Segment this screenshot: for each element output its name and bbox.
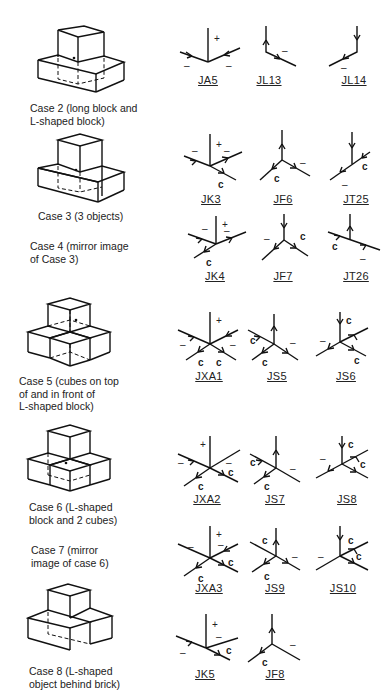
- junction-JT26: c–: [328, 214, 388, 269]
- svg-text:+: +: [214, 33, 220, 44]
- case3-block-figure: [36, 132, 131, 207]
- svg-text:+: +: [216, 139, 222, 150]
- svg-text:c: c: [354, 355, 360, 366]
- junction-JL13: –: [258, 22, 308, 72]
- svg-text:–: –: [226, 60, 232, 71]
- junction-label-JT25: JT25: [331, 193, 381, 205]
- junction-JK3: +––c: [184, 130, 254, 185]
- junction-label-JF8: JF8: [250, 668, 300, 680]
- case5-cubes-figure: [26, 296, 116, 371]
- junction-label-JS7: JS7: [250, 493, 300, 505]
- svg-text:c: c: [226, 645, 232, 656]
- svg-text:–: –: [300, 157, 306, 168]
- svg-text:–: –: [292, 551, 298, 562]
- svg-text:c: c: [332, 241, 338, 252]
- svg-text:–: –: [264, 233, 270, 244]
- svg-text:–: –: [360, 253, 366, 264]
- svg-text:–: –: [342, 179, 348, 190]
- svg-text:–: –: [224, 225, 230, 236]
- svg-text:–: –: [224, 145, 230, 156]
- svg-text:–: –: [184, 60, 190, 71]
- svg-text:–: –: [282, 45, 288, 56]
- junction-label-JS6: JS6: [321, 370, 371, 382]
- svg-text:–: –: [180, 647, 186, 658]
- svg-text:c: c: [300, 231, 306, 242]
- case6-cubes-figure: [26, 423, 116, 495]
- svg-text:c: c: [274, 173, 280, 184]
- junction-JF8: –c: [248, 614, 313, 669]
- case8-brick-figure: [26, 582, 116, 654]
- junction-JF6: –c: [260, 130, 320, 185]
- junction-label-JF7: JF7: [258, 270, 308, 282]
- svg-text:c: c: [198, 357, 204, 368]
- svg-text:–: –: [290, 337, 296, 348]
- junction-label-JA5: JA5: [183, 74, 233, 86]
- svg-text:c: c: [360, 459, 366, 470]
- svg-text:–: –: [341, 62, 347, 73]
- junction-label-JS9: JS9: [250, 582, 300, 594]
- svg-text:c: c: [262, 657, 268, 668]
- junction-label-JK3: JK3: [186, 193, 236, 205]
- svg-text:–: –: [230, 339, 236, 350]
- junction-label-JF6: JF6: [258, 193, 308, 205]
- svg-text:–: –: [318, 551, 324, 562]
- svg-text:–: –: [192, 145, 198, 156]
- case3-caption: Case 3 (3 objects): [38, 210, 123, 223]
- svg-text:–: –: [290, 463, 296, 474]
- svg-text:–: –: [188, 541, 194, 552]
- junction-label-JXA1: JXA1: [184, 370, 234, 382]
- junction-JS5: c–c: [248, 310, 313, 365]
- svg-text:–: –: [216, 631, 222, 642]
- svg-text:c: c: [356, 551, 362, 562]
- junction-label-JXA2: JXA2: [182, 493, 232, 505]
- svg-text:c: c: [262, 357, 268, 368]
- junction-JT25: c–: [330, 130, 388, 185]
- case7-caption: Case 7 (mirror image of case 6): [31, 544, 109, 569]
- junction-JK5: +––c: [176, 614, 246, 669]
- junction-JXA1: +––cc: [176, 310, 246, 365]
- case4-caption: Case 4 (mirror image of Case 3): [30, 240, 129, 265]
- junction-JL14: –: [325, 22, 375, 72]
- junction-label-JK4: JK4: [190, 270, 240, 282]
- svg-text:c: c: [264, 571, 270, 582]
- junction-JK4: +––c: [188, 214, 258, 269]
- svg-text:c: c: [250, 457, 256, 468]
- svg-text:–: –: [202, 223, 208, 234]
- junction-JS6: c–c: [316, 310, 386, 365]
- svg-text:c: c: [218, 179, 224, 190]
- svg-text:c: c: [346, 315, 352, 326]
- case6-caption: Case 6 (L-shaped block and 2 cubes): [29, 501, 117, 526]
- junction-label-JT26: JT26: [331, 270, 381, 282]
- case2-block-figure: [36, 22, 131, 97]
- junction-JXA2: +––cc: [176, 436, 246, 491]
- svg-text:+: +: [200, 439, 206, 450]
- junction-JXA3: +––cc: [176, 526, 246, 581]
- svg-text:c: c: [216, 357, 222, 368]
- junction-label-JXA3: JXA3: [184, 582, 234, 594]
- junction-JS8: c–c: [316, 436, 386, 491]
- junction-label-JL14: JL14: [329, 74, 379, 86]
- svg-text:c: c: [206, 257, 212, 268]
- junction-label-JS5: JS5: [252, 370, 302, 382]
- svg-text:c: c: [228, 467, 234, 478]
- svg-text:–: –: [178, 457, 184, 468]
- junction-JS10: c–c: [316, 526, 386, 581]
- junction-label-JS10: JS10: [318, 582, 368, 594]
- junction-JF7: –c: [262, 214, 322, 269]
- junction-JA5: +––: [178, 22, 248, 72]
- svg-text:c: c: [362, 161, 368, 172]
- svg-text:c: c: [348, 535, 354, 546]
- case8-caption: Case 8 (L-shaped object behind brick): [29, 665, 120, 690]
- svg-text:–: –: [290, 639, 296, 650]
- case2-caption: Case 2 (long block and L-shaped block): [30, 102, 137, 127]
- svg-text:+: +: [212, 619, 218, 630]
- junction-label-JK5: JK5: [180, 668, 230, 680]
- svg-text:c: c: [264, 481, 270, 492]
- svg-text:c: c: [262, 535, 268, 546]
- svg-text:c: c: [348, 439, 354, 450]
- junction-JS7: c–c: [250, 436, 315, 491]
- svg-text:c: c: [198, 481, 204, 492]
- svg-text:c: c: [228, 557, 234, 568]
- junction-label-JL13: JL13: [244, 74, 294, 86]
- case5-caption: Case 5 (cubes on top of and in front of …: [19, 375, 119, 413]
